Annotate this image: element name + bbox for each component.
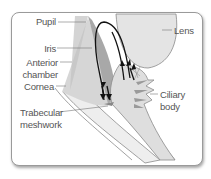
label-anterior-chamber-line2: chamber (10, 69, 58, 80)
label-iris: Iris (20, 43, 56, 54)
label-anterior-chamber-line1: Anterior (10, 57, 58, 68)
label-trabecular-line2: meshwork (20, 119, 62, 130)
lens-shape (116, 14, 177, 68)
label-trabecular-line1: Trabecular (20, 107, 63, 118)
label-cornea: Cornea (10, 81, 54, 92)
label-ciliary-line2: body (160, 101, 180, 112)
label-pupil: Pupil (20, 16, 56, 27)
label-lens: Lens (174, 25, 194, 36)
label-ciliary-line1: Ciliary (160, 89, 185, 100)
